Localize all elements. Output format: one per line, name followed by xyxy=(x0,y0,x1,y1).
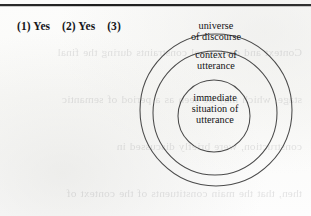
concentric-circles-diagram xyxy=(0,0,311,216)
inner-circle-label: immediate situation of utterance xyxy=(180,93,250,126)
outer-circle-label: universe of discourse xyxy=(168,21,264,42)
middle-circle-label: context of utterance xyxy=(170,50,262,71)
scanned-page: Context and contextual constraints durin… xyxy=(0,0,311,216)
